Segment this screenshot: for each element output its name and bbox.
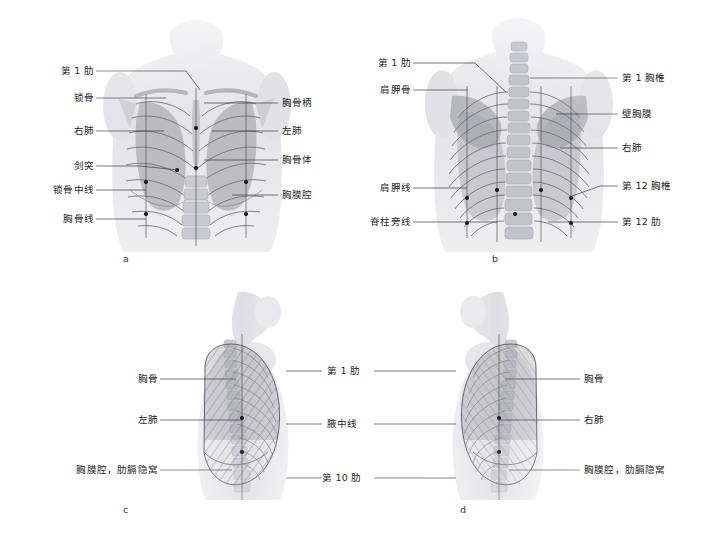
label-parietal-pleura: 壁胸膜 [622, 108, 653, 119]
label-right-lung: 右肺 [36, 125, 94, 136]
label-midaxillary-line: 腋中线 [327, 418, 358, 429]
label-sternum: 胸骨 [584, 373, 604, 384]
anatomy-figure: 第 1 肋 锁骨 右肺 剑突 锁骨中线 胸骨线 胸骨柄 左肺 胸骨体 胸膜腔 第… [0, 0, 708, 547]
label-pleural-cavity-costodiaphragmatic-recess: 胸膜腔，肋膈隐窝 [62, 464, 158, 475]
label-twelfth-thoracic-vertebra: 第 12 胸椎 [622, 180, 672, 191]
label-first-rib: 第 1 肋 [353, 57, 411, 68]
label-tenth-rib: 第 10 肋 [322, 472, 361, 483]
label-twelfth-rib: 第 12 肋 [622, 216, 661, 227]
label-paravertebral-line: 脊柱旁线 [343, 216, 411, 227]
label-sternum: 胸骨 [102, 373, 158, 384]
label-manubrium: 胸骨柄 [282, 97, 313, 108]
panel-b-posterior-illustration [413, 18, 618, 252]
center-leader-lines [286, 371, 456, 478]
panel-letter-c: c [123, 504, 128, 515]
label-scapular-line: 肩胛线 [353, 182, 411, 193]
panel-d-right-lateral-illustration [452, 292, 580, 500]
label-scapula: 肩胛骨 [353, 84, 411, 95]
panel-letter-b: b [492, 253, 498, 264]
label-right-lung: 右肺 [584, 414, 604, 425]
label-first-thoracic-vertebra: 第 1 胸椎 [622, 72, 665, 83]
label-midclavicular-line: 锁骨中线 [26, 184, 94, 195]
label-right-lung: 右肺 [622, 142, 642, 153]
label-pleural-cavity-costodiaphragmatic-recess: 胸膜腔，肋膈隐窝 [584, 464, 666, 475]
label-clavicle: 锁骨 [36, 92, 94, 103]
panel-c-left-lateral-illustration [160, 292, 289, 500]
label-xiphoid-process: 剑突 [36, 160, 94, 171]
label-left-lung: 左肺 [282, 125, 302, 136]
label-sternal-line: 胸骨线 [31, 213, 94, 224]
label-left-lung: 左肺 [102, 414, 158, 425]
panel-letter-d: d [460, 504, 466, 515]
label-first-rib: 第 1 肋 [36, 65, 94, 76]
panel-letter-a: a [123, 253, 129, 264]
label-sternal-body: 胸骨体 [282, 154, 313, 165]
label-first-rib-center: 第 1 肋 [327, 365, 360, 376]
panel-a-anterior-illustration [96, 20, 291, 252]
label-pleural-cavity: 胸膜腔 [282, 189, 313, 200]
